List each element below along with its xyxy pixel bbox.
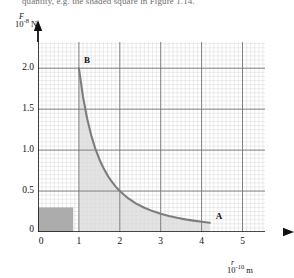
x-axis-arrowhead [283,228,294,236]
x-tick-label-4: 5 [236,236,250,246]
y-tick-label-1: 0.5 [10,185,34,195]
y-axis-scale: 10-8 N [15,18,37,29]
x-tick-label-2: 3 [154,236,168,246]
y-axis-label: F 10-8 N [16,12,38,32]
y-tick-label-3: 1.5 [10,103,34,113]
x-origin-label: 0 [34,236,48,246]
x-tick-label-0: 1 [72,236,86,246]
x-tick-label-1: 2 [113,236,127,246]
y-axis-exponent: -8 [24,17,29,24]
y-axis-label-fraction: F 10-8 N [16,12,38,31]
chart-svg [38,42,265,232]
x-axis-exponent: -10 [236,263,245,270]
y-tick-label-4: 2.0 [10,62,34,72]
figure-caption: quantity, e.g. the shaded square in Figu… [22,0,272,8]
plot-area [38,42,265,232]
x-axis-unit: m [246,265,253,275]
point-label-a: A [216,211,223,221]
figure-1-14: quantity, e.g. the shaded square in Figu… [0,0,294,278]
origin-label: 0 [10,224,34,234]
x-axis-label-fraction: r 10-10 m [228,258,254,277]
y-tick-label-2: 1.0 [10,144,34,154]
x-axis-label: r 10-10 m [228,258,254,278]
x-axis-scale: 10-10 m [227,264,253,275]
x-tick-label-3: 4 [195,236,209,246]
point-label-b: B [84,55,90,65]
y-axis-unit: N [31,19,37,29]
shaded-unit-square [38,207,73,232]
